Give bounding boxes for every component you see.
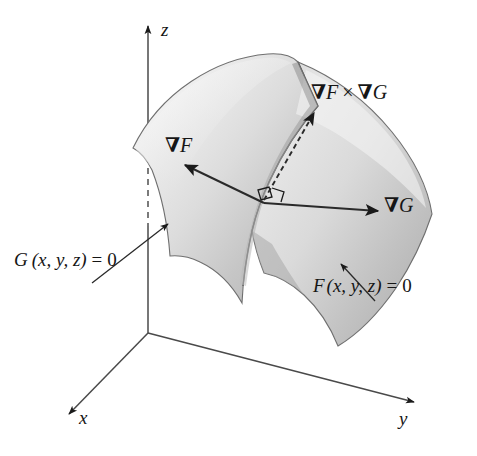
grad-g-function-name: G [399, 194, 413, 216]
axis-x [69, 333, 148, 414]
f-function-name: F [313, 275, 325, 296]
g-equation-rhs: 0 [107, 249, 117, 270]
f-equals-sign: = [386, 275, 397, 296]
grad-g-label: ∇G [384, 195, 414, 215]
cross-second-function-name: G [373, 81, 387, 103]
y-axis-line [148, 333, 414, 402]
x-axis-line [69, 333, 148, 414]
surface-intersection-figure: z x y ∇F ∇G ∇F×∇G G(x, y, z)=0 F(x, y, z… [0, 0, 477, 456]
surface-g-equation-label: G(x, y, z)=0 [14, 250, 117, 269]
cross-product-operator: × [342, 81, 353, 103]
cross-first-function-name: F [326, 81, 338, 103]
x-axis-label: x [79, 408, 87, 427]
f-equation-rhs: 0 [402, 275, 412, 296]
grad-f-function-name: F [180, 134, 192, 156]
g-function-args: (x, y, z) [32, 249, 87, 270]
grad-f-label: ∇F [165, 135, 192, 155]
g-equals-sign: = [92, 249, 103, 270]
g-function-name: G [14, 249, 28, 270]
f-function-args: (x, y, z) [327, 275, 382, 296]
y-axis-label: y [399, 409, 407, 428]
nabla-icon: ∇ [165, 134, 180, 156]
surface-f-equation-label: F(x, y, z)=0 [313, 276, 412, 295]
axis-y [148, 333, 414, 402]
z-axis-label: z [161, 20, 168, 39]
nabla-icon: ∇ [358, 81, 373, 103]
cross-product-label: ∇F×∇G [311, 82, 387, 102]
nabla-icon: ∇ [384, 194, 399, 216]
nabla-icon: ∇ [311, 81, 326, 103]
diagram-canvas [0, 0, 477, 456]
